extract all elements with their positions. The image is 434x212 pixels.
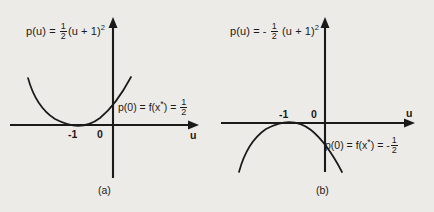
- x-axis-label-b: u: [406, 107, 412, 119]
- annotation-b-fraction: 12: [391, 136, 398, 155]
- formula-b-exponent: 2: [315, 23, 319, 32]
- panel-b: p(u) = - 12 (u + 1)2 p(0) = f(x*) = -12 …: [217, 0, 434, 212]
- annotation-b-lhs: p(0) = f(x: [325, 139, 367, 151]
- formula-b: p(u) = - 12 (u + 1)2: [230, 22, 319, 41]
- x-tick-label-zero-a: 0: [97, 128, 103, 140]
- formula-a-lhs: p(u): [26, 25, 46, 37]
- x-axis-arrowhead-b: [404, 119, 415, 128]
- x-tick-label-minus-one-b: -1: [279, 108, 288, 120]
- formula-a-fraction: 12: [60, 22, 67, 41]
- panel-caption-a: (a): [98, 184, 111, 196]
- formula-b-equals: =: [253, 25, 260, 37]
- formula-b-lhs: p(u): [230, 25, 250, 37]
- annotation-a-denominator: 2: [180, 108, 187, 117]
- formula-a-equals: =: [49, 25, 56, 37]
- formula-a: p(u) = 12(u + 1)2: [26, 22, 105, 41]
- y-axis-arrowhead-b: [321, 17, 330, 28]
- annotation-a-mid: ) =: [164, 101, 177, 113]
- x-tick-label-minus-one-a: -1: [68, 128, 77, 140]
- figure-container: p(u) = 12(u + 1)2 p(0) = f(x*) = 12 -1 0…: [0, 0, 434, 212]
- x-tick-label-zero-b: 0: [311, 108, 317, 120]
- parabola-curve-a: [28, 77, 131, 126]
- formula-b-body: (u + 1): [282, 25, 315, 37]
- annotation-b-sign: -: [386, 139, 390, 151]
- annotation-a-lhs: p(0) = f(x: [118, 101, 160, 113]
- y-axis-arrowhead-a: [109, 17, 118, 28]
- annotation-b: p(0) = f(x*) = -12: [325, 136, 399, 155]
- annotation-a-fraction: 12: [180, 98, 187, 117]
- annotation-b-mid: ) =: [371, 139, 384, 151]
- x-axis-label-a: u: [190, 129, 196, 141]
- annotation-a: p(0) = f(x*) = 12: [118, 98, 188, 117]
- formula-a-exponent: 2: [101, 23, 105, 32]
- formula-b-denominator: 2: [271, 32, 278, 41]
- formula-b-sign: -: [263, 25, 267, 37]
- panel-a: p(u) = 12(u + 1)2 p(0) = f(x*) = 12 -1 0…: [0, 0, 217, 212]
- panel-caption-b: (b): [316, 184, 329, 196]
- formula-a-body: (u + 1): [68, 25, 101, 37]
- formula-a-denominator: 2: [60, 32, 67, 41]
- formula-b-fraction: 12: [271, 22, 278, 41]
- annotation-b-denominator: 2: [391, 146, 398, 155]
